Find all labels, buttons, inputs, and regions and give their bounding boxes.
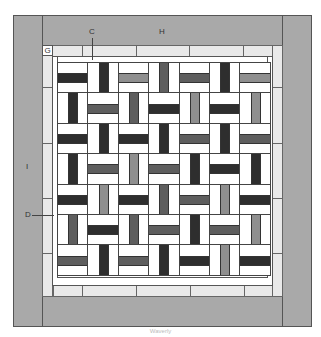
rail-strip — [210, 225, 239, 235]
border-seam — [53, 285, 54, 296]
rail-strip — [58, 134, 87, 144]
rail-strip — [119, 195, 148, 205]
rail-strip — [129, 154, 139, 183]
quilt-block — [209, 123, 240, 154]
rail-strip — [129, 93, 139, 122]
rail-strip — [251, 215, 261, 244]
quilt-block — [148, 62, 179, 93]
quilt-block — [57, 62, 88, 93]
quilt-block — [239, 123, 270, 154]
quilt-block — [179, 123, 210, 154]
rail-strip — [99, 185, 109, 214]
rail-strip — [240, 134, 269, 144]
outer-border-left-I — [13, 15, 43, 327]
quilt-block — [148, 92, 179, 123]
border-seam — [272, 253, 283, 254]
arrow-D — [32, 215, 54, 216]
rail-strip — [159, 185, 169, 214]
rail-strip — [99, 63, 109, 92]
rail-strip — [159, 124, 169, 153]
rail-strip — [210, 104, 239, 114]
border-seam — [82, 285, 83, 296]
quilt-block — [148, 184, 179, 215]
quilt-block — [57, 153, 88, 184]
rail-strip — [190, 93, 200, 122]
inner-border-right — [272, 45, 283, 297]
quilt-block — [118, 214, 149, 245]
rail-strip — [251, 93, 261, 122]
rail-strip — [68, 154, 78, 183]
rail-strip — [58, 195, 87, 205]
quilt-block — [87, 244, 118, 275]
border-seam — [243, 45, 244, 56]
corner-square-G: G — [42, 45, 53, 56]
rail-strip — [220, 63, 230, 92]
quilt-block — [179, 184, 210, 215]
rail-strip — [88, 225, 117, 235]
rail-strip — [68, 93, 78, 122]
rail-strip — [149, 104, 178, 114]
outer-border-bottom — [42, 296, 283, 327]
quilt-block — [209, 214, 240, 245]
quilt-block — [148, 214, 179, 245]
arrow-C — [92, 38, 93, 60]
rail-strip — [99, 245, 109, 274]
rail-strip — [58, 256, 87, 266]
quilt-block — [118, 244, 149, 275]
rail-strip — [190, 154, 200, 183]
quilt-block — [209, 244, 240, 275]
quilt-block — [239, 214, 270, 245]
quilt-block — [239, 244, 270, 275]
inner-border-bottom — [42, 285, 283, 297]
border-seam — [244, 285, 245, 296]
rail-strip — [119, 73, 148, 83]
rail-strip — [159, 63, 169, 92]
quilt-block — [209, 184, 240, 215]
quilt-block — [239, 153, 270, 184]
quilt-block — [179, 244, 210, 275]
quilt-block — [87, 92, 118, 123]
border-seam — [189, 45, 190, 56]
quilt-block — [148, 153, 179, 184]
border-seam — [136, 285, 137, 296]
rail-strip — [88, 164, 117, 174]
label-I: I — [26, 163, 28, 171]
rail-strip — [149, 225, 178, 235]
quilt-block — [57, 123, 88, 154]
quilt-block — [179, 153, 210, 184]
rail-strip — [240, 195, 269, 205]
quilt-block — [87, 62, 118, 93]
rail-strip — [68, 215, 78, 244]
block-grid — [57, 62, 270, 275]
rail-strip — [180, 134, 209, 144]
rail-strip — [119, 256, 148, 266]
quilt-block — [57, 214, 88, 245]
quilt-block — [87, 123, 118, 154]
rail-strip — [220, 245, 230, 274]
quilt-block — [118, 62, 149, 93]
quilt-block — [57, 184, 88, 215]
rail-strip — [240, 73, 269, 83]
quilt-block — [209, 153, 240, 184]
rail-strip — [220, 124, 230, 153]
quilt-block — [118, 153, 149, 184]
quilt-block — [57, 92, 88, 123]
label-H: H — [159, 28, 165, 36]
rail-strip — [210, 164, 239, 174]
border-seam — [272, 198, 283, 199]
rail-strip — [180, 73, 209, 83]
quilt-block — [209, 92, 240, 123]
outer-border-right — [282, 15, 312, 327]
rail-strip — [251, 154, 261, 183]
quilt-block — [148, 123, 179, 154]
quilt-block — [87, 184, 118, 215]
quilt-block — [239, 184, 270, 215]
rail-strip — [240, 256, 269, 266]
label-G: G — [44, 46, 50, 55]
quilt-block — [87, 153, 118, 184]
quilt-block — [179, 214, 210, 245]
quilt-block — [57, 244, 88, 275]
rail-strip — [99, 124, 109, 153]
quilt-block — [179, 92, 210, 123]
quilt-block — [118, 92, 149, 123]
